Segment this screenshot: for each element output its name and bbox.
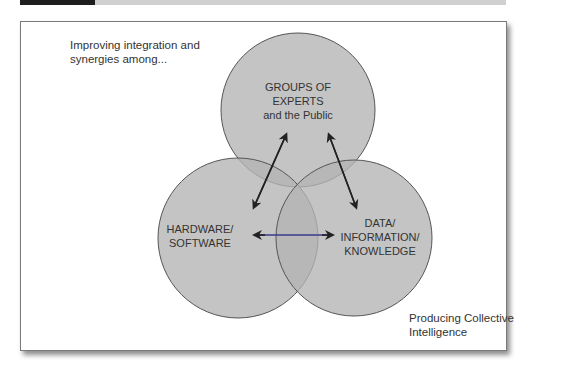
- outcome-line-1: Producing Collective: [409, 311, 514, 325]
- label-experts-line-1: GROUPS OF: [248, 80, 348, 94]
- label-experts: GROUPS OF EXPERTS and the Public: [248, 80, 348, 122]
- label-data-line-2: INFORMATION/: [335, 230, 425, 244]
- outcome-line-2: Intelligence: [409, 325, 514, 339]
- label-data: DATA/ INFORMATION/ KNOWLEDGE: [335, 216, 425, 258]
- label-hardware-line-2: SOFTWARE: [160, 236, 240, 250]
- label-data-line-1: DATA/: [335, 216, 425, 230]
- label-data-line-3: KNOWLEDGE: [335, 244, 425, 258]
- label-hardware-line-1: HARDWARE/: [160, 222, 240, 236]
- intro-text: Improving integration and synergies amon…: [70, 38, 200, 66]
- intro-line-2: synergies among...: [70, 52, 200, 66]
- label-experts-line-2: EXPERTS: [248, 94, 348, 108]
- outcome-text: Producing Collective Intelligence: [409, 311, 514, 339]
- label-experts-line-3: and the Public: [248, 108, 348, 122]
- label-hardware: HARDWARE/ SOFTWARE: [160, 222, 240, 250]
- intro-line-1: Improving integration and: [70, 38, 200, 52]
